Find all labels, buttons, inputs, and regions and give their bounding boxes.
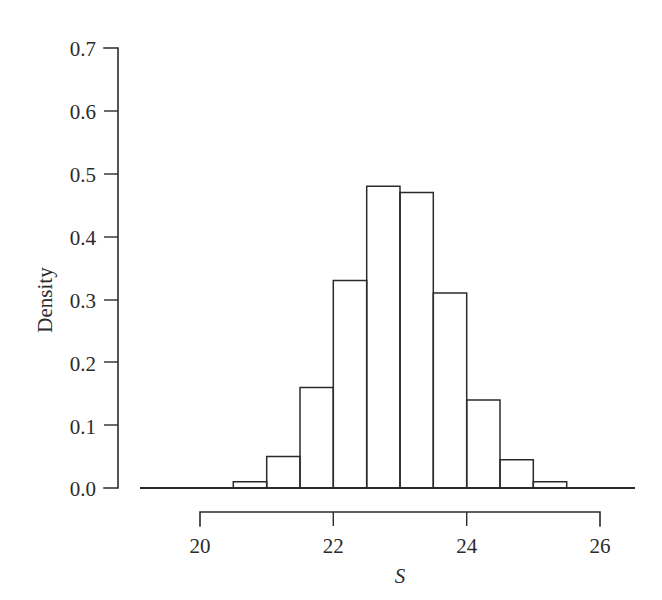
histogram-bar-24.25 xyxy=(467,400,500,488)
x-axis-title: S xyxy=(395,564,406,588)
histogram-bars xyxy=(233,186,566,488)
y-tick-label-0.7: 0.7 xyxy=(70,37,96,61)
histogram-bar-22.75 xyxy=(367,186,400,488)
histogram-bar-24.75 xyxy=(500,460,533,488)
x-axis-tick-labels: 20 22 24 26 xyxy=(190,534,611,558)
histogram-bar-23.25 xyxy=(400,193,433,488)
y-tick-label-0.1: 0.1 xyxy=(70,415,96,439)
y-axis-title: Density xyxy=(33,267,57,333)
x-tick-label-22: 22 xyxy=(323,534,344,558)
y-tick-label-0.4: 0.4 xyxy=(70,226,97,250)
y-tick-label-0.3: 0.3 xyxy=(70,289,96,313)
x-tick-label-24: 24 xyxy=(456,534,478,558)
x-tick-label-26: 26 xyxy=(590,534,611,558)
y-tick-label-0.5: 0.5 xyxy=(70,163,96,187)
histogram-bar-23.75 xyxy=(433,293,466,488)
y-tick-label-0.6: 0.6 xyxy=(70,100,96,124)
density-histogram-chart: Density 0.7 0.6 0.5 0.4 0.3 0.2 0.1 0.0 xyxy=(0,0,662,600)
y-axis-tick-labels: 0.7 0.6 0.5 0.4 0.3 0.2 0.1 0.0 xyxy=(70,37,97,501)
histogram-bar-21.75 xyxy=(300,387,333,488)
histogram-bar-21.25 xyxy=(267,457,300,488)
x-axis-ticks xyxy=(333,512,466,526)
y-tick-label-0.0: 0.0 xyxy=(70,477,96,501)
histogram-bar-22.25 xyxy=(333,281,366,488)
histogram-figure: Density 0.7 0.6 0.5 0.4 0.3 0.2 0.1 0.0 xyxy=(0,0,662,600)
x-axis-spine xyxy=(200,512,600,526)
y-axis-ticks xyxy=(104,111,118,425)
y-tick-label-0.2: 0.2 xyxy=(70,352,96,376)
y-axis-spine xyxy=(104,48,118,488)
x-tick-label-20: 20 xyxy=(190,534,211,558)
